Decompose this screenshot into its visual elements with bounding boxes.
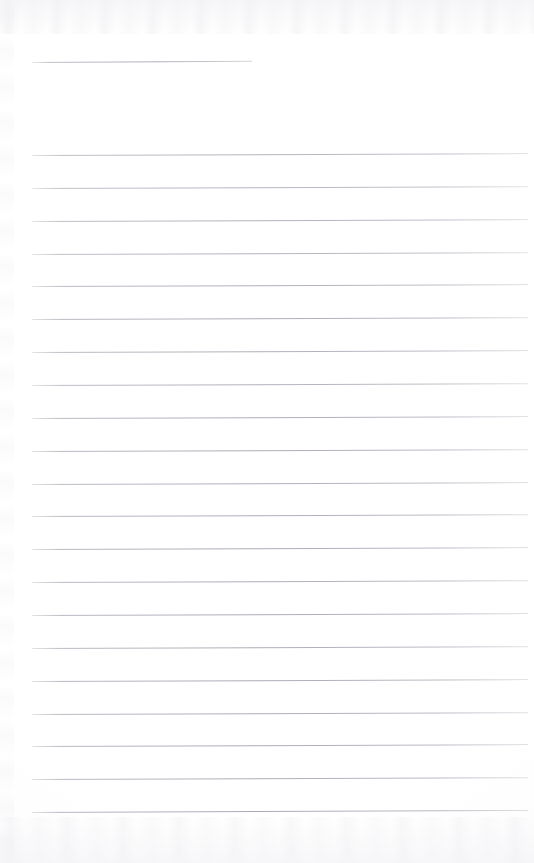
ruled-line bbox=[32, 61, 252, 63]
ruled-line bbox=[32, 416, 528, 419]
ruled-line bbox=[32, 482, 528, 485]
ruled-line bbox=[32, 186, 528, 189]
ruled-line bbox=[32, 547, 528, 550]
ruled-line bbox=[32, 383, 528, 386]
ruled-line bbox=[32, 252, 528, 255]
ruled-line bbox=[32, 580, 528, 583]
ruled-line bbox=[32, 317, 528, 320]
ruled-line bbox=[32, 153, 528, 156]
ruled-line bbox=[32, 350, 528, 353]
ruled-line bbox=[32, 515, 528, 518]
ruled-line bbox=[32, 284, 528, 287]
ruled-line bbox=[32, 449, 528, 452]
ruled-line bbox=[32, 744, 528, 747]
ruled-line bbox=[32, 712, 528, 715]
ruled-line bbox=[32, 810, 528, 813]
ruled-lines-layer bbox=[0, 0, 534, 863]
ruled-line bbox=[32, 613, 528, 616]
ruled-line bbox=[32, 679, 528, 682]
ruled-line bbox=[32, 219, 528, 222]
ruled-line bbox=[32, 777, 528, 780]
scanned-page bbox=[0, 0, 534, 863]
ruled-line bbox=[32, 646, 528, 649]
